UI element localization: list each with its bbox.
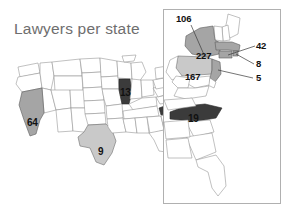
map-figure: Lawyers per state 64 9 13 19 106 227 167… — [0, 0, 292, 217]
state-label-north-carolina: 19 — [188, 114, 199, 124]
state-california — [19, 88, 44, 136]
state-label-illinois: 13 — [120, 88, 131, 98]
page-title: Lawyers per state — [14, 20, 140, 38]
inset-label-connecticut: 42 — [256, 41, 266, 51]
inset-label-new-jersey: 5 — [256, 73, 261, 83]
inset-label-pennsylvania: 167 — [185, 72, 200, 82]
inset-state-massachusetts — [215, 42, 240, 51]
state-label-california: 64 — [27, 118, 38, 128]
inset-label-massachusetts: 106 — [176, 14, 191, 24]
state-label-texas: 9 — [98, 147, 103, 157]
inset-label-new-york: 227 — [196, 51, 211, 61]
inset-label-rhode-island: 8 — [256, 59, 261, 69]
